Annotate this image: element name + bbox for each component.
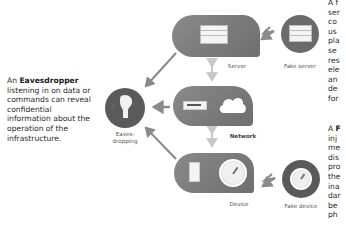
battery-icon: [189, 162, 200, 182]
fake-server-node[interactable]: [281, 15, 319, 53]
server-label: Server: [222, 63, 252, 69]
cloud-icon: [217, 93, 247, 115]
ear-icon: [117, 94, 135, 120]
network-label: Network: [226, 133, 260, 139]
device-label: Device: [224, 201, 254, 207]
eavesdropping-label-text: Eaves- dropping: [113, 131, 138, 144]
server-node[interactable]: [172, 15, 260, 57]
gauge-icon: [219, 159, 247, 187]
sound-waves-icon: )): [111, 102, 116, 110]
router-icon: [183, 101, 207, 110]
device-node[interactable]: [174, 153, 254, 193]
eavesdropping-node[interactable]: )): [105, 88, 145, 128]
fake-device-label: Fake device: [278, 203, 324, 209]
server-rack-icon: [200, 25, 228, 44]
eavesdropping-label: Eaves- dropping: [108, 131, 142, 145]
fake-device-node[interactable]: [282, 160, 320, 198]
server-rack-icon: [289, 25, 312, 42]
fake-server-label: Fake server: [278, 63, 322, 69]
gauge-icon: [290, 168, 312, 190]
network-node[interactable]: [173, 86, 253, 126]
